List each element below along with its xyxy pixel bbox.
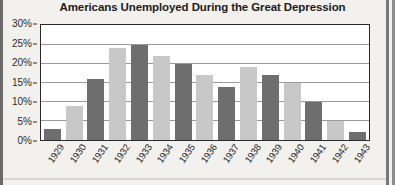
bar-1930 [66, 106, 83, 140]
bar-series [42, 26, 369, 141]
bar-1933 [131, 45, 148, 140]
x-tick-label: 1942 [329, 142, 350, 165]
y-tick-label: 5% [18, 117, 32, 127]
bar-1941 [305, 102, 322, 140]
bar-1937 [218, 87, 235, 140]
bar-1940 [284, 83, 301, 140]
bar-1939 [262, 75, 279, 140]
x-tick-label: 1935 [177, 142, 198, 165]
y-tick-mark [33, 82, 37, 83]
y-axis: 30%25%20%15%10%5%0% [0, 24, 37, 141]
bar-1936 [196, 75, 213, 140]
x-tick-label: 1934 [155, 142, 176, 165]
x-tick-label: 1930 [68, 142, 89, 165]
x-tick-label: 1940 [286, 142, 307, 165]
x-tick-label: 1932 [111, 142, 132, 165]
bar-1942 [327, 121, 344, 140]
y-tick-label: 25% [12, 39, 32, 49]
y-tick-mark [33, 121, 37, 122]
y-tick-label: 30% [12, 19, 32, 29]
x-tick-label: 1943 [351, 142, 372, 165]
bar-1935 [175, 64, 192, 140]
x-tick-label: 1933 [133, 142, 154, 165]
y-tick-mark [33, 102, 37, 103]
y-tick-mark [33, 43, 37, 44]
y-tick-mark [33, 63, 37, 64]
x-tick-label: 1929 [46, 142, 67, 165]
y-tick-mark [33, 24, 37, 25]
x-tick-label: 1938 [242, 142, 263, 165]
y-tick-label: 20% [12, 58, 32, 68]
x-axis: 1929193019311932193319341935193619371938… [42, 142, 369, 182]
bar-1938 [240, 67, 257, 140]
x-tick-label: 1931 [89, 142, 110, 165]
page-edge-right [386, 0, 389, 185]
bar-1931 [87, 79, 104, 140]
bar-1943 [349, 132, 366, 140]
chart-page: Americans Unemployed During the Great De… [0, 0, 395, 185]
x-tick-label: 1941 [307, 142, 328, 165]
chart-title: Americans Unemployed During the Great De… [30, 1, 375, 13]
x-tick-label: 1939 [264, 142, 285, 165]
bar-1932 [109, 48, 126, 140]
x-tick-label: 1937 [220, 142, 241, 165]
bar-1929 [44, 129, 61, 140]
y-tick-mark [33, 141, 37, 142]
x-tick-label: 1936 [198, 142, 219, 165]
y-tick-label: 0% [18, 136, 32, 146]
y-tick-label: 10% [12, 97, 32, 107]
y-tick-label: 15% [12, 78, 32, 88]
bar-1934 [153, 56, 170, 140]
